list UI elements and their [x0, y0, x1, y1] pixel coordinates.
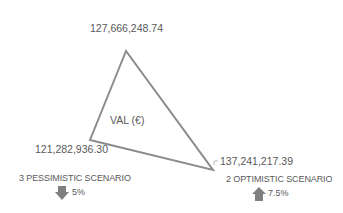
right-vertex-value: 137,241,217.39 — [220, 155, 293, 167]
top-vertex-value: 127,666,248.74 — [90, 22, 163, 34]
val-scenario-diagram: 127,666,248.74 VAL (€) 121,282,936.30 13… — [0, 0, 343, 213]
arrow-up-icon — [252, 187, 266, 201]
leader-line — [214, 161, 218, 165]
optimistic-scenario-label: 2 OPTIMISTIC SCENARIO — [226, 174, 332, 184]
arrow-down-icon — [55, 186, 69, 200]
left-vertex-value: 121,282,936.30 — [35, 143, 108, 155]
pessimistic-percent: 5% — [72, 187, 85, 197]
pessimistic-scenario-label: 3 PESSIMISTIC SCENARIO — [19, 173, 131, 183]
optimistic-percent: 7.5% — [268, 188, 289, 198]
center-label: VAL (€) — [110, 114, 144, 126]
